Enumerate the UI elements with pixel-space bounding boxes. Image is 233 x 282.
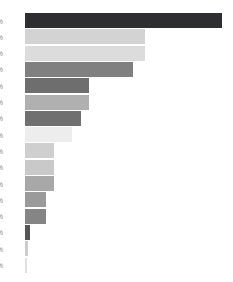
bar-row <box>25 62 222 77</box>
bar-row <box>25 78 222 93</box>
bar[interactable] <box>25 78 89 93</box>
bar-row <box>25 209 222 224</box>
bar-row <box>25 258 222 273</box>
y-axis-tick-label: % <box>0 99 3 106</box>
y-axis-tick-label: % <box>0 213 3 220</box>
bar-row <box>25 111 222 126</box>
bar[interactable] <box>25 241 28 256</box>
y-axis-tick-label: % <box>0 131 3 138</box>
bar-row <box>25 143 222 158</box>
bar[interactable] <box>25 62 133 77</box>
y-axis-tick-label: % <box>0 147 3 154</box>
y-axis-tick-label: % <box>0 196 3 203</box>
bar[interactable] <box>25 176 54 191</box>
bar[interactable] <box>25 209 46 224</box>
bar[interactable] <box>25 95 89 110</box>
bar-row <box>25 29 222 44</box>
y-axis-tick-label: % <box>0 66 3 73</box>
y-axis-tick-label: % <box>0 180 3 187</box>
y-axis-tick-label: % <box>0 82 3 89</box>
bar-row <box>25 46 222 61</box>
bar[interactable] <box>25 127 72 142</box>
bar-row <box>25 225 222 240</box>
bar[interactable] <box>25 192 46 207</box>
y-axis-tick-label: % <box>0 115 3 122</box>
bar[interactable] <box>25 13 222 28</box>
y-axis-tick-label: % <box>0 262 3 269</box>
y-axis-tick-label: % <box>0 245 3 252</box>
bar-chart: %%%%%%%%%%%%%%%% <box>0 0 233 282</box>
plot-area <box>25 13 222 273</box>
y-axis-tick-label: % <box>0 50 3 57</box>
bar-row <box>25 241 222 256</box>
y-axis-tick-label: % <box>0 17 3 24</box>
y-axis-tick-label: % <box>0 229 3 236</box>
bar-row <box>25 13 222 28</box>
bar-row <box>25 160 222 175</box>
y-axis-tick-label: % <box>0 164 3 171</box>
bar[interactable] <box>25 46 145 61</box>
bar-row <box>25 127 222 142</box>
bar[interactable] <box>25 160 54 175</box>
bar-row <box>25 95 222 110</box>
y-axis-tick-labels: %%%%%%%%%%%%%%%% <box>0 13 25 273</box>
y-axis-tick-label: % <box>0 33 3 40</box>
bar[interactable] <box>25 143 54 158</box>
bar-row <box>25 176 222 191</box>
bar-row <box>25 192 222 207</box>
bar[interactable] <box>25 225 30 240</box>
bar[interactable] <box>25 258 27 273</box>
bar[interactable] <box>25 111 81 126</box>
bar[interactable] <box>25 29 145 44</box>
